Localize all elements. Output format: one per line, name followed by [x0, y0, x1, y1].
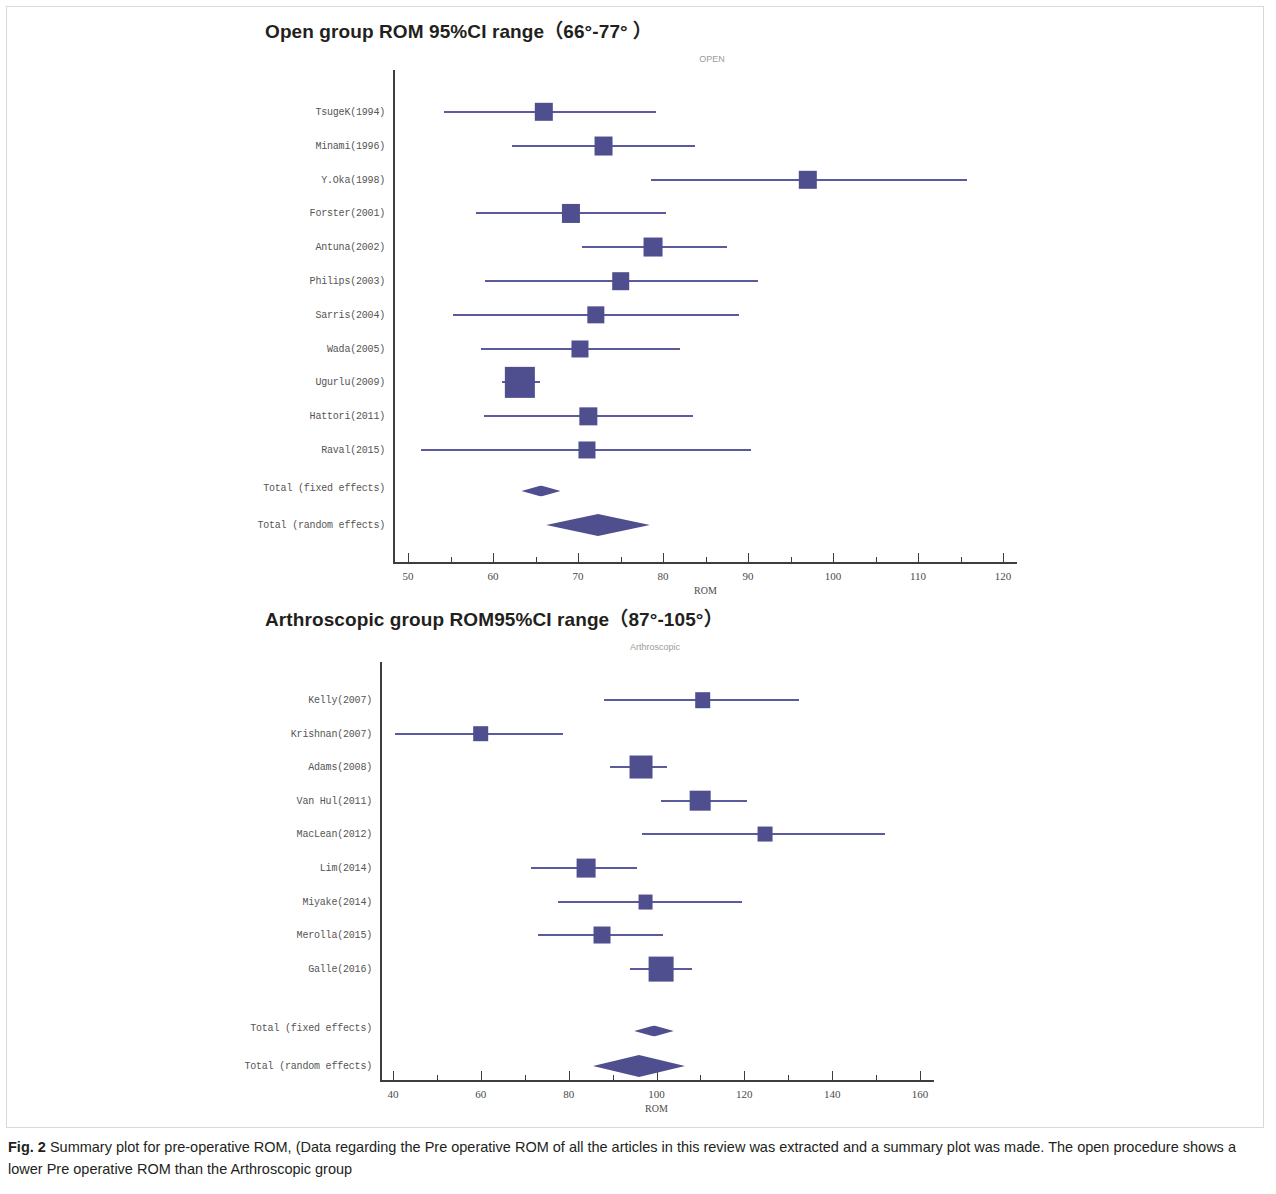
study-label: Sarris(2004) — [315, 309, 385, 320]
x-axis-tick-label: 90 — [743, 570, 754, 582]
effect-estimate-marker — [505, 367, 535, 397]
study-label: Adams(2008) — [308, 762, 372, 773]
x-axis-tick — [920, 1071, 921, 1080]
summary-diamond — [635, 1023, 675, 1034]
study-label: Lim(2014) — [320, 863, 372, 874]
study-label: MacLean(2012) — [297, 829, 372, 840]
x-axis-minor-tick — [437, 1075, 438, 1080]
x-axis-tick-label: 40 — [388, 1088, 399, 1100]
summary-diamond — [593, 1055, 685, 1077]
x-axis-tick — [569, 1071, 570, 1080]
x-axis-tick — [408, 553, 409, 562]
x-axis-tick — [832, 1071, 833, 1080]
effect-estimate-marker — [612, 272, 630, 290]
study-label: Antuna(2002) — [315, 242, 385, 253]
x-axis-minor-tick — [788, 1075, 789, 1080]
plot-inner-title: OPEN — [699, 54, 725, 64]
study-label: Y.Oka(1998) — [321, 174, 385, 185]
summary-label: Total (random effects) — [257, 520, 385, 531]
effect-estimate-marker — [571, 340, 588, 357]
effect-estimate-marker — [638, 894, 653, 909]
panel-heading-open: Open group ROM 95%CI range（66°-77° ） — [265, 16, 652, 43]
summary-label: Total (fixed effects) — [263, 483, 385, 494]
x-axis-minor-tick — [791, 557, 792, 562]
x-axis-tick — [663, 553, 664, 562]
effect-estimate-marker — [577, 859, 596, 878]
study-label: Raval(2015) — [321, 445, 385, 456]
effect-estimate-marker — [535, 103, 553, 121]
effect-estimate-marker — [473, 726, 489, 742]
study-label: Hattori(2011) — [310, 411, 385, 422]
y-axis-line — [393, 70, 395, 562]
x-axis-tick-label: 80 — [658, 570, 669, 582]
forest-plot-open: OPEN5060708090100110120ROMTsugeK(1994)Mi… — [0, 50, 1276, 610]
figure-caption-text: Summary plot for pre-operative ROM, (Dat… — [8, 1139, 1236, 1177]
effect-estimate-marker — [594, 136, 613, 155]
x-axis-minor-tick — [536, 557, 537, 562]
study-label: Forster(2001) — [310, 208, 385, 219]
x-axis-tick — [1003, 553, 1004, 562]
x-axis-tick — [393, 1071, 394, 1080]
x-axis-tick-label: 60 — [488, 570, 499, 582]
effect-estimate-marker — [578, 441, 595, 458]
study-label: Merolla(2015) — [297, 930, 372, 941]
x-axis-tick-label: 60 — [475, 1088, 486, 1100]
x-axis-tick — [481, 1071, 482, 1080]
x-axis-tick — [578, 553, 579, 562]
effect-estimate-marker — [648, 956, 673, 981]
x-axis-tick — [918, 553, 919, 562]
effect-estimate-marker — [643, 238, 662, 257]
study-label: TsugeK(1994) — [315, 107, 385, 118]
study-label: Miyake(2014) — [302, 896, 372, 907]
x-axis-tick-label: 50 — [403, 570, 414, 582]
x-axis-minor-tick — [451, 557, 452, 562]
x-axis-minor-tick — [876, 557, 877, 562]
y-axis-line — [380, 662, 382, 1080]
x-axis-tick-label: 100 — [825, 570, 842, 582]
x-axis-minor-tick — [961, 557, 962, 562]
x-axis-tick — [748, 553, 749, 562]
forest-plot-arthroscopic: Arthroscopic406080100120140160ROMKelly(2… — [0, 640, 1276, 1140]
x-axis-line — [380, 1080, 934, 1082]
x-axis-tick-label: 140 — [824, 1088, 841, 1100]
x-axis-label: ROM — [694, 585, 717, 596]
x-axis-tick-label: 110 — [910, 570, 926, 582]
effect-estimate-marker — [690, 790, 711, 811]
x-axis-tick — [833, 553, 834, 562]
x-axis-minor-tick — [525, 1075, 526, 1080]
summary-label: Total (random effects) — [244, 1061, 372, 1072]
effect-estimate-marker — [587, 306, 604, 323]
effect-estimate-marker — [798, 170, 816, 188]
x-axis-line — [393, 562, 1017, 564]
effect-estimate-marker — [630, 756, 653, 779]
study-label: Philips(2003) — [310, 276, 385, 287]
x-axis-tick-label: 70 — [573, 570, 584, 582]
plot-inner-title: Arthroscopic — [630, 642, 680, 652]
summary-diamond — [547, 514, 651, 536]
study-label: Minami(1996) — [315, 140, 385, 151]
x-axis-tick-label: 120 — [995, 570, 1012, 582]
figure-caption: Fig. 2 Summary plot for pre-operative RO… — [8, 1136, 1266, 1181]
effect-estimate-marker — [562, 204, 580, 222]
x-axis-tick — [744, 1071, 745, 1080]
study-label: Wada(2005) — [327, 343, 385, 354]
study-label: Kelly(2007) — [308, 695, 372, 706]
summary-label: Total (fixed effects) — [250, 1023, 372, 1034]
figure-caption-label: Fig. 2 — [8, 1139, 46, 1155]
effect-estimate-marker — [580, 408, 597, 425]
figure-page: Open group ROM 95%CI range（66°-77° ） OPE… — [0, 0, 1276, 1194]
x-axis-minor-tick — [876, 1075, 877, 1080]
x-axis-minor-tick — [621, 557, 622, 562]
study-label: Ugurlu(2009) — [315, 377, 385, 388]
x-axis-tick-label: 160 — [912, 1088, 929, 1100]
x-axis-label: ROM — [645, 1103, 668, 1114]
x-axis-minor-tick — [706, 557, 707, 562]
summary-diamond — [521, 483, 560, 494]
effect-estimate-marker — [695, 692, 711, 708]
study-label: Galle(2016) — [308, 963, 372, 974]
effect-estimate-marker — [758, 827, 773, 842]
x-axis-minor-tick — [700, 1075, 701, 1080]
study-label: Krishnan(2007) — [291, 728, 372, 739]
x-axis-tick-label: 100 — [648, 1088, 665, 1100]
x-axis-tick-label: 120 — [736, 1088, 753, 1100]
